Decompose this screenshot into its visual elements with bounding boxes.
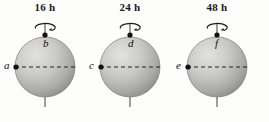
equator-point-dot <box>185 64 190 69</box>
rotating-spheres-figure: 16 h <box>0 0 269 122</box>
sphere-diagram-1 <box>0 0 90 122</box>
sphere-group-3: 48 h f e <box>172 0 262 122</box>
equator-point-label-3: e <box>176 60 181 71</box>
sphere-group-1: 16 h <box>0 0 90 122</box>
equator-point-label-2: c <box>89 60 94 71</box>
sphere-group-2: 24 h d c <box>85 0 175 122</box>
pole-point-label-1: b <box>43 38 49 49</box>
pole-point-label-3: f <box>215 38 218 49</box>
equator-point-label-1: a <box>4 60 10 71</box>
sphere-diagram-2 <box>85 0 175 122</box>
equator-point-dot <box>98 64 103 69</box>
equator-point-dot <box>13 64 18 69</box>
sphere-diagram-3 <box>172 0 262 122</box>
pole-point-label-2: d <box>128 38 134 49</box>
